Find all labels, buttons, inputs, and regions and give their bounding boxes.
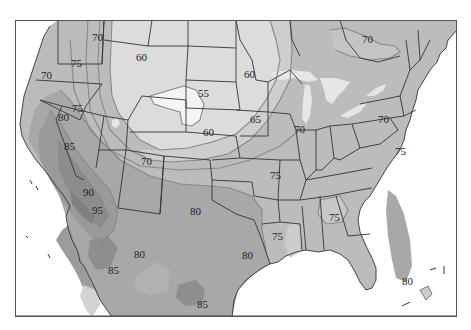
isotherm-label: 60 (136, 51, 148, 63)
isotherm-label: 80 (242, 249, 254, 261)
isotherm-label: 80 (190, 205, 202, 217)
isotherm-label: 90 (83, 186, 95, 198)
isotherm-label: 75 (395, 145, 407, 157)
isotherm-label: 70 (362, 33, 374, 45)
isotherm-label: 75 (329, 211, 341, 223)
isotherm-label: 80 (134, 248, 146, 260)
isotherm-label: 85 (64, 140, 76, 152)
isotherm-label: 80 (402, 275, 414, 287)
isotherm-label: 70 (294, 123, 306, 135)
isotherm-label: 85 (108, 264, 120, 276)
isotherm-label: 75 (71, 57, 83, 69)
isotherm-label: 75 (270, 169, 282, 181)
isotherm-label: 70 (378, 113, 390, 125)
isotherm-label: 65 (250, 113, 262, 125)
isotherm-label: 70 (141, 155, 153, 167)
isotherm-label: 60 (244, 68, 256, 80)
isotherm-label: 75 (72, 102, 84, 114)
isotherm-map: 70 75 70 60 55 60 60 65 70 70 70 75 80 8… (0, 0, 471, 330)
isotherm-label: 95 (92, 204, 104, 216)
isotherm-label: 60 (203, 126, 215, 138)
isotherm-label: 70 (92, 31, 104, 43)
isotherm-label: 85 (197, 298, 209, 310)
isotherm-label: 55 (198, 87, 210, 99)
isotherm-label: 80 (58, 111, 70, 123)
isotherm-label: 70 (41, 69, 53, 81)
map-canvas: 70 75 70 60 55 60 60 65 70 70 70 75 80 8… (0, 0, 471, 330)
isotherm-label: 75 (272, 230, 284, 242)
